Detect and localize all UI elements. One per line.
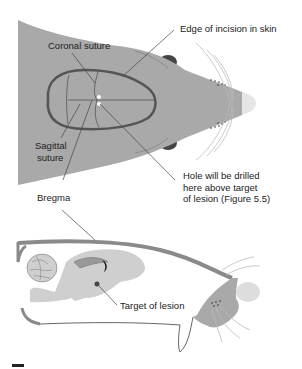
sagittal-section: [18, 210, 260, 352]
label-target: Target of lesion: [120, 300, 184, 311]
label-hole: Hole will be drilled: [183, 170, 260, 181]
drill-hole: [97, 95, 101, 99]
label-bregma: Bregma: [37, 192, 70, 203]
nose-icon: [236, 282, 260, 302]
label-edge-incision: Edge of incision in skin: [180, 23, 277, 34]
label-coronal-suture: Coronal suture: [48, 40, 110, 51]
label-hole: here above target: [183, 182, 257, 193]
label-sagittal-suture: suture: [37, 152, 63, 163]
cerebellum: [27, 254, 57, 282]
nose-icon: [242, 92, 256, 115]
label-sagittal-suture: Sagittal: [35, 140, 67, 151]
label-hole: of lesion (Figure 5.5): [183, 193, 270, 204]
target-of-lesion: [95, 282, 100, 287]
scale-bar: [12, 364, 24, 367]
